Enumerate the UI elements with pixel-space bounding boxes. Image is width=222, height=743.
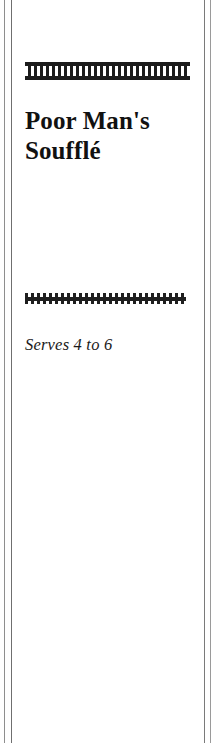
recipe-title-line-1: Poor Man's <box>25 107 150 134</box>
left-inner-column-rule <box>11 0 12 743</box>
castellated-bar-ornament <box>25 62 190 80</box>
ornament-castellation <box>25 66 190 76</box>
square-wave-ornament <box>25 293 186 304</box>
recipe-page: Poor Man's Soufflé Serves 4 to 6 <box>0 0 222 743</box>
recipe-title-line-2: Soufflé <box>25 137 101 164</box>
ornament-cap-top <box>25 62 190 65</box>
right-outer-column-rule <box>210 0 211 743</box>
left-outer-column-rule <box>4 0 5 743</box>
recipe-yield: Serves 4 to 6 <box>25 304 191 355</box>
ornament-cap-bottom <box>25 77 190 80</box>
right-inner-column-rule <box>204 0 205 743</box>
recipe-title: Poor Man's Soufflé <box>25 80 185 165</box>
recipe-content-column: Poor Man's Soufflé Serves 4 to 6 <box>25 0 191 355</box>
ornament-wave <box>25 293 186 304</box>
